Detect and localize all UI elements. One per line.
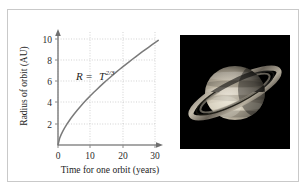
y-tick-labels: 10 8 6 4 2 (43, 35, 53, 130)
equation-annotation: R = T 2/3 (75, 69, 115, 83)
equation-exponent: 2/3 (106, 69, 115, 77)
equation-variable-r: R (75, 70, 83, 82)
data-curve-r-equals-t-two-thirds (58, 40, 158, 145)
x-axis (58, 142, 163, 147)
x-tick-label: 0 (56, 151, 61, 161)
y-tick-label: 8 (47, 56, 52, 66)
y-axis-title: Radius of orbit (AU) (19, 46, 30, 125)
figure-container: 10 8 6 4 2 0 10 20 30 R = T 2/3 (0, 0, 308, 191)
orbit-radius-chart: 10 8 6 4 2 0 10 20 30 R = T 2/3 (14, 14, 166, 180)
y-tick-label: 4 (47, 98, 52, 108)
x-tick-label: 10 (85, 151, 95, 161)
y-tick-label: 2 (47, 120, 52, 130)
grid-vertical (58, 32, 155, 145)
x-tick-label: 30 (150, 151, 160, 161)
equation-equals-sign: = (86, 70, 92, 82)
y-axis (55, 29, 61, 145)
x-tick-label: 20 (118, 151, 128, 161)
y-tick-label: 6 (47, 77, 52, 87)
saturn-photo-panel (180, 35, 290, 149)
saturn-image (180, 35, 290, 149)
chart-panel: 10 8 6 4 2 0 10 20 30 R = T 2/3 (14, 14, 166, 180)
x-axis-title: Time for one orbit (years) (61, 165, 159, 176)
y-tick-label: 10 (43, 35, 53, 45)
x-tick-labels: 0 10 20 30 (56, 151, 160, 161)
